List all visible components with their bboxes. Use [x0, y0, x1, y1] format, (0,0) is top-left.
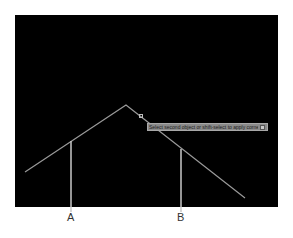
label-b: B	[177, 211, 184, 223]
line-segments[interactable]	[25, 105, 245, 198]
dropdown-arrow-icon[interactable]	[260, 125, 265, 130]
label-a: A	[67, 211, 74, 223]
tooltip-text: Select second object or shift-select to …	[149, 124, 258, 130]
drawing-canvas	[0, 0, 293, 238]
pickbox-cursor-icon	[139, 114, 143, 118]
figure: Select second object or shift-select to …	[0, 0, 293, 238]
command-prompt-tooltip: Select second object or shift-select to …	[147, 123, 268, 131]
